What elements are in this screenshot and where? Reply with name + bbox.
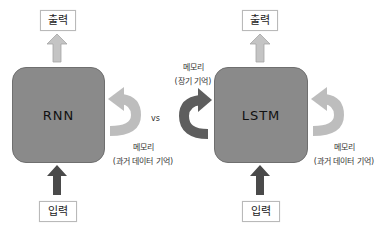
lstm-memory-label-line2: (과거 데이터 기억) [306, 155, 382, 166]
lstm-long-term-memory-label: 메모리 (장기 기억) [170, 61, 216, 86]
rnn-memory-label-line2: (과거 데이터 기억) [106, 155, 180, 166]
rnn-output-arrow-icon [47, 34, 67, 62]
lstm-output-arrow-icon [250, 34, 270, 62]
vs-separator: vs [151, 114, 160, 123]
lstm-memory-label: 메모리 (과거 데이터 기억) [306, 141, 382, 166]
rnn-memory-label-line1: 메모리 [106, 141, 180, 152]
lstm-block: LSTM [214, 67, 308, 163]
lstm-long-term-label-line2: (장기 기억) [170, 75, 216, 86]
rnn-output-label: 출력 [40, 10, 76, 31]
lstm-memory-label-line1: 메모리 [306, 141, 382, 152]
lstm-memory-loop-arrow-icon [309, 85, 349, 140]
lstm-output-label: 출력 [242, 10, 278, 31]
lstm-input-label: 입력 [242, 201, 280, 222]
rnn-input-label: 입력 [39, 201, 77, 222]
lstm-input-arrow-icon [250, 165, 270, 195]
rnn-memory-label: 메모리 (과거 데이터 기억) [106, 141, 180, 166]
rnn-memory-loop-arrow-icon [106, 85, 146, 140]
lstm-long-term-label-line1: 메모리 [170, 61, 216, 72]
rnn-block: RNN [12, 67, 105, 163]
lstm-long-term-arrow-icon [178, 88, 216, 140]
rnn-input-arrow-icon [47, 165, 67, 195]
lstm-block-label: LSTM [242, 108, 281, 123]
rnn-block-label: RNN [43, 108, 74, 123]
